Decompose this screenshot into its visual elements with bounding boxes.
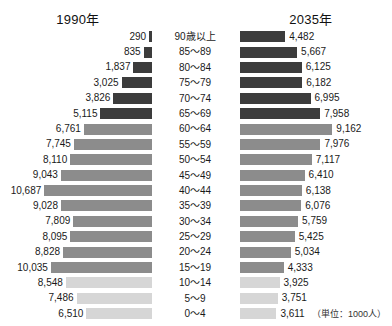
left-series-cell: 10,687 [0,183,152,198]
right-bar [240,77,302,88]
left-value-label: 8,095 [42,232,67,242]
left-bar [70,154,152,165]
left-bar [84,124,152,135]
pyramid-row: 83585〜895,667 [0,44,392,59]
left-series-cell: 9,028 [0,198,152,213]
age-group-label: 30〜34 [152,214,238,229]
right-series-cell: 7,117 [240,152,392,167]
right-value-label: 7,958 [324,109,349,119]
right-series-cell: 7,958 [240,106,392,121]
left-value-label: 290 [129,32,146,42]
pyramid-row: 7,74555〜597,976 [0,137,392,152]
left-series-cell: 1,837 [0,60,152,75]
age-group-label: 60〜64 [152,121,238,136]
right-bar [240,200,301,211]
right-value-label: 7,976 [324,139,349,149]
right-value-label: 6,995 [315,93,340,103]
age-group-label: 75〜79 [152,75,238,90]
age-group-label: 45〜49 [152,168,238,183]
left-value-label: 8,548 [38,278,63,288]
pyramid-row: 8,09525〜295,425 [0,229,392,244]
left-series-cell: 835 [0,44,152,59]
pyramid-row: 8,54810〜143,925 [0,275,392,290]
left-bar [77,293,152,304]
left-series-cell: 3,025 [0,75,152,90]
left-bar [63,247,152,258]
left-bar [44,185,152,196]
right-value-label: 7,117 [316,155,340,165]
right-value-label: 5,759 [302,216,327,226]
right-bar [240,154,312,165]
right-series-cell: 5,667 [240,44,392,59]
right-value-label: 3,611 [280,309,304,319]
right-series-cell: 3,925 [240,275,392,290]
age-group-label: 80〜84 [152,60,238,75]
left-bar [61,170,152,181]
right-bar [240,31,285,42]
right-bar [240,124,332,135]
right-value-label: 5,034 [295,247,320,257]
age-group-label: 5〜9 [152,291,238,306]
left-value-label: 6,510 [58,309,83,319]
age-group-label: 70〜74 [152,91,238,106]
right-value-label: 3,751 [282,293,307,303]
left-value-label: 6,761 [56,124,81,134]
age-group-label: 85〜89 [152,44,238,59]
left-bar [122,77,152,88]
right-series-cell: 6,138 [240,183,392,198]
left-series-cell: 3,826 [0,91,152,106]
left-bar [86,308,152,319]
right-bar [240,308,276,319]
left-bar [133,62,152,73]
pyramid-row: 9,04345〜496,410 [0,168,392,183]
left-series-cell: 7,745 [0,137,152,152]
right-value-label: 3,925 [284,278,309,288]
left-series-cell: 6,761 [0,121,152,136]
left-series-cell: 8,828 [0,244,152,259]
pyramid-row: 10,03515〜194,333 [0,260,392,275]
left-series-cell: 10,035 [0,260,152,275]
left-series-cell: 8,110 [0,152,152,167]
right-value-label: 5,425 [299,232,324,242]
right-value-label: 6,125 [306,62,331,72]
pyramid-row: 7,80930〜345,759 [0,214,392,229]
right-series-cell: 6,410 [240,168,392,183]
left-bar [144,47,152,58]
right-value-label: 9,162 [336,124,361,134]
population-pyramid-chart: 1990年 2035年 29090歳以上4,48283585〜895,6671,… [0,0,392,326]
right-series-cell: 6,995 [240,91,392,106]
right-column-title: 2035年 [236,9,386,28]
right-series-cell: 6,125 [240,60,392,75]
age-group-label: 35〜39 [152,198,238,213]
right-bar [240,62,302,73]
unit-note: （単位：1000人） [312,307,386,320]
right-bar [240,277,280,288]
left-series-cell: 9,043 [0,168,152,183]
right-series-cell: 7,976 [240,137,392,152]
right-series-cell: 4,333 [240,260,392,275]
left-value-label: 10,687 [11,186,42,196]
right-bar [240,216,298,227]
left-value-label: 9,028 [33,201,58,211]
left-series-cell: 6,510 [0,306,152,321]
pyramid-row: 9,02835〜396,076 [0,198,392,213]
right-bar [240,247,291,258]
left-value-label: 7,486 [49,293,74,303]
right-series-cell: 9,162 [240,121,392,136]
right-value-label: 6,076 [305,201,330,211]
right-bar [240,139,320,150]
left-bar [66,277,152,288]
left-series-cell: 8,548 [0,275,152,290]
left-value-label: 10,035 [17,263,48,273]
pyramid-rows: 29090歳以上4,48283585〜895,6671,83780〜846,12… [0,29,392,321]
left-value-label: 3,826 [85,93,110,103]
left-bar [113,93,152,104]
left-value-label: 8,110 [43,155,67,165]
left-column-title: 1990年 [0,9,156,28]
right-value-label: 4,333 [288,263,313,273]
left-series-cell: 8,095 [0,229,152,244]
left-bar [100,108,152,119]
pyramid-row: 7,4865〜93,751 [0,291,392,306]
right-bar [240,170,305,181]
age-group-label: 20〜24 [152,244,238,259]
